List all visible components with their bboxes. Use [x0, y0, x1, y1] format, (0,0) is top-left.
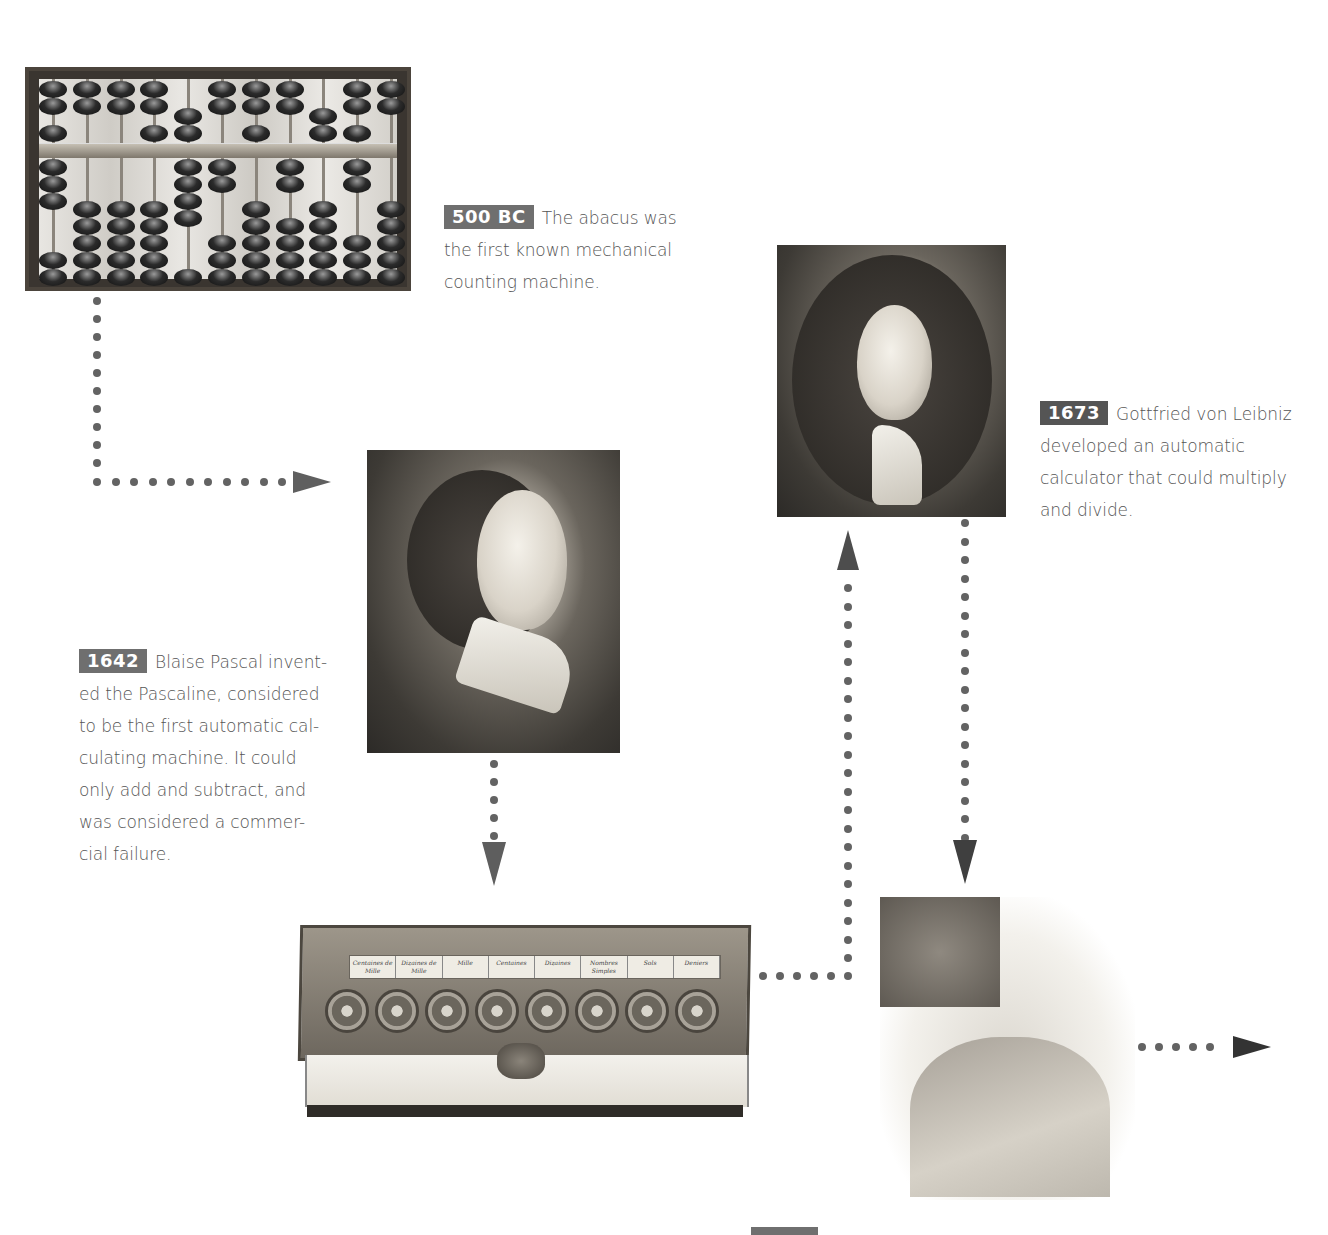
- abacus-bead: [39, 252, 67, 269]
- connector-dot: [844, 806, 852, 814]
- caption-line: calculator that could multiply: [1040, 468, 1287, 488]
- pascaline-base: [307, 1105, 743, 1117]
- caption-line: The abacus was: [542, 208, 677, 228]
- dial-label: Dizaines de Mille: [396, 956, 442, 978]
- connector-dot: [93, 405, 101, 413]
- abacus-bead: [276, 98, 304, 115]
- abacus-bead: [377, 252, 405, 269]
- connector-dot: [149, 478, 157, 486]
- connector-dot: [93, 369, 101, 377]
- abacus-bead: [309, 125, 337, 142]
- connector-dot: [844, 843, 852, 851]
- blaise-pascal-portrait: [367, 450, 620, 753]
- abacus-bead: [39, 269, 67, 286]
- connector-dot: [844, 769, 852, 777]
- dial-label: Nombres Simples: [581, 956, 627, 978]
- arrow-right-icon: [1233, 1036, 1271, 1058]
- connector-dot: [844, 695, 852, 703]
- abacus-bead: [208, 269, 236, 286]
- abacus-bead: [377, 98, 405, 115]
- date-badge: 1673: [1040, 401, 1108, 425]
- connector-dot: [278, 478, 286, 486]
- dial-label: Mille: [443, 956, 489, 978]
- abacus-bead: [377, 235, 405, 252]
- connector-dot: [961, 760, 969, 768]
- abacus-bead: [242, 235, 270, 252]
- abacus-bead: [140, 269, 168, 286]
- abacus-bead: [39, 98, 67, 115]
- jacquard-portrait: [880, 897, 1135, 1200]
- pascaline-dial: [325, 989, 369, 1033]
- abacus-bead: [140, 235, 168, 252]
- connector-dot: [490, 760, 498, 768]
- abacus-beam: [39, 143, 397, 158]
- abacus-bead: [208, 98, 236, 115]
- abacus-bead: [377, 81, 405, 98]
- connector-dot: [490, 778, 498, 786]
- pascaline-machine-photo: Centaines de Mille Dizaines de Mille Mil…: [277, 897, 757, 1117]
- abacus-bead: [377, 218, 405, 235]
- abacus-bead: [73, 201, 101, 218]
- abacus-bead: [242, 269, 270, 286]
- connector-dot: [844, 954, 852, 962]
- connector-dot: [93, 478, 101, 486]
- connector-dot: [961, 704, 969, 712]
- connector-dot: [961, 575, 969, 583]
- portrait-face: [477, 490, 567, 630]
- abacus-photo: [25, 67, 411, 291]
- abacus-bead: [73, 218, 101, 235]
- abacus-bead: [39, 159, 67, 176]
- abacus-bead: [73, 269, 101, 286]
- abacus-bead: [276, 176, 304, 193]
- connector-dot: [810, 972, 818, 980]
- abacus-bead: [73, 98, 101, 115]
- abacus-bead: [276, 81, 304, 98]
- dial-label: Centaines: [489, 956, 535, 978]
- abacus-bead: [242, 81, 270, 98]
- connector-dot: [167, 478, 175, 486]
- abacus-bead: [208, 81, 236, 98]
- abacus-bead: [140, 252, 168, 269]
- caption-line: only add and subtract, and: [79, 780, 306, 800]
- arrow-right-icon: [293, 471, 331, 493]
- abacus-bead: [140, 218, 168, 235]
- caption-line: the first known mechanical: [444, 240, 672, 260]
- abacus-bead: [39, 176, 67, 193]
- connector-dot: [844, 972, 852, 980]
- connector-dot: [1206, 1043, 1214, 1051]
- abacus-bead: [309, 252, 337, 269]
- abacus-bead: [73, 81, 101, 98]
- caption-line: ed the Pascaline, considered: [79, 684, 319, 704]
- abacus-bead: [343, 159, 371, 176]
- abacus-frame: [39, 79, 397, 279]
- connector-dot: [844, 603, 852, 611]
- abacus-bead: [107, 235, 135, 252]
- connector-dot: [844, 862, 852, 870]
- connector-dot: [93, 459, 101, 467]
- abacus-bead: [242, 252, 270, 269]
- abacus-bead: [174, 193, 202, 210]
- connector-dot: [260, 478, 268, 486]
- abacus-bead: [309, 218, 337, 235]
- connector-dot: [1172, 1043, 1180, 1051]
- caption-line: cial failure.: [79, 844, 171, 864]
- abacus-bead: [309, 269, 337, 286]
- caption-line: counting machine.: [444, 272, 600, 292]
- abacus-bead: [107, 201, 135, 218]
- connector-dot: [961, 686, 969, 694]
- abacus-bead: [39, 193, 67, 210]
- abacus-bead: [39, 81, 67, 98]
- connector-dot: [844, 880, 852, 888]
- abacus-bead: [309, 235, 337, 252]
- abacus-bead: [208, 176, 236, 193]
- arrow-up-icon: [837, 530, 859, 570]
- connector-dot: [961, 778, 969, 786]
- abacus-bead: [73, 235, 101, 252]
- connector-dot: [961, 538, 969, 546]
- caption-line: and divide.: [1040, 500, 1133, 520]
- caption-line: to be the first automatic cal-: [79, 716, 319, 736]
- connector-dot: [93, 315, 101, 323]
- connector-dot: [961, 815, 969, 823]
- pascaline-dial: [575, 989, 619, 1033]
- abacus-bead: [377, 269, 405, 286]
